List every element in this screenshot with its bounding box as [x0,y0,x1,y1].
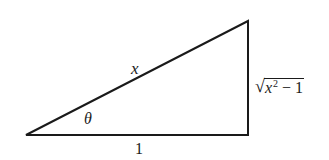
radicand-variable: x [265,80,272,96]
angle-theta-label: θ [84,111,92,127]
radicand-tail: − 1 [282,80,303,96]
square-root-icon: √ [255,77,265,95]
opposite-side-label: √ x 2 − 1 [255,78,304,96]
radicand: x 2 − 1 [264,78,304,96]
radicand-exponent: 2 [273,79,278,89]
adjacent-side-label: 1 [135,141,143,157]
hypotenuse-label: x [131,60,139,77]
triangle-shape [26,21,248,135]
